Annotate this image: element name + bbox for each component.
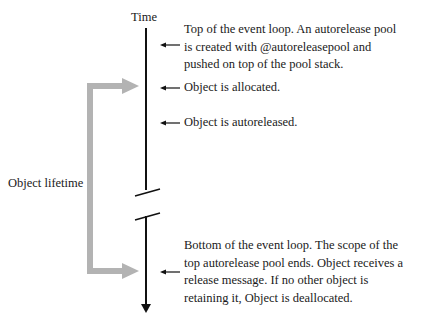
time-axis-label: Time xyxy=(131,9,157,25)
bracket-arrow-top-icon xyxy=(122,78,139,94)
event-bottom-of-loop: Bottom of the event loop. The scope of t… xyxy=(184,237,414,307)
timeline-arrowhead-icon xyxy=(141,304,151,313)
event-autoreleased: Object is autoreleased. xyxy=(184,114,399,132)
pointer-arrow-icon xyxy=(160,270,180,275)
lifetime-bracket xyxy=(90,86,124,271)
pointer-arrow-icon xyxy=(160,86,180,91)
pointer-arrow-icon xyxy=(160,121,180,126)
timeline-break-top xyxy=(135,189,160,196)
object-lifetime-label: Object lifetime xyxy=(8,175,83,191)
event-allocated: Object is allocated. xyxy=(184,79,399,97)
timeline-break-bottom xyxy=(135,213,160,220)
bracket-arrow-bottom-icon xyxy=(122,263,139,279)
pointer-arrow-icon xyxy=(160,43,180,48)
event-top-of-loop: Top of the event loop. An autorelease po… xyxy=(184,21,399,74)
